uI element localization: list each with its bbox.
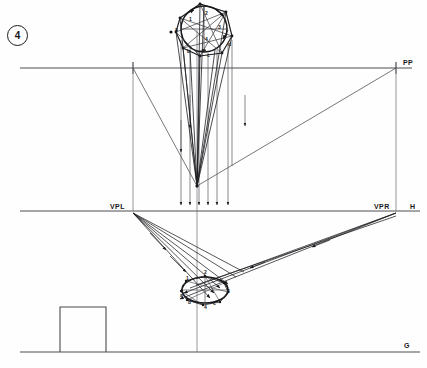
plan-corner-label-a: a	[175, 27, 178, 32]
horizon-label: H	[410, 203, 415, 210]
perspective-corner-label-c: c	[213, 301, 216, 306]
perspective-vertex-label-1: 1	[186, 276, 189, 281]
perspective-vertex-label-4: 4	[204, 305, 207, 310]
plan-vertex-label-1: 1	[189, 17, 192, 22]
plan-vertex-label-3: 3	[218, 25, 221, 30]
plan-vertex-label-2: 2	[205, 11, 208, 16]
drawing-canvas	[0, 0, 427, 368]
plan-corner-label-d: d	[228, 42, 231, 47]
figure-number: 4	[7, 25, 28, 46]
perspective-corner-label-a: a	[180, 293, 183, 298]
ground-label: G	[404, 342, 410, 349]
scale-square	[60, 307, 106, 352]
perspective-corner-label-b: b	[188, 300, 191, 305]
vanishing-point-right-label: VPR	[374, 203, 390, 210]
picture-plane-label: PP	[403, 59, 413, 66]
vpr-converging-lines	[180, 213, 396, 299]
plan-vertex-label-4: 4	[205, 37, 208, 42]
perspective-vertex-label-3: 3	[227, 289, 230, 294]
plan-view-octagon	[169, 3, 233, 58]
perspective-drawing-figure: 4 PP VPL VPR H G 1 2 3 4 a b c d 1 2 3 4…	[0, 0, 427, 368]
plan-corner-label-b: b	[187, 49, 190, 54]
construction-verticals	[133, 30, 396, 352]
vanishing-point-rays	[133, 68, 396, 186]
perspective-vertex-label-2: 2	[204, 270, 207, 275]
plan-corner-label-c: c	[207, 53, 210, 58]
vanishing-point-left-label: VPL	[110, 203, 125, 210]
station-point	[195, 184, 198, 187]
